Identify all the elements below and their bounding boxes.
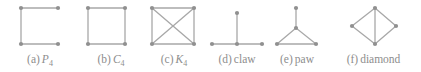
caption-name-paw: paw bbox=[293, 53, 314, 65]
graph-cell-diamond: (f)diamond bbox=[326, 0, 421, 72]
vertex-center bbox=[235, 42, 239, 46]
caption-name-diamond: diamond bbox=[358, 53, 400, 65]
edge-top-to-right bbox=[375, 8, 396, 26]
graph-drawing-p4 bbox=[0, 0, 80, 50]
vertex-top-right bbox=[192, 6, 196, 10]
vertex-top-left bbox=[86, 6, 90, 10]
edge-top-to-left bbox=[352, 8, 375, 26]
vertex-left bbox=[350, 24, 354, 28]
vertex-top-right bbox=[56, 6, 60, 10]
edge-group bbox=[21, 8, 58, 44]
vertex-right bbox=[394, 24, 398, 28]
edge-group bbox=[152, 8, 194, 44]
vertex-leaf-right bbox=[260, 42, 264, 46]
graph-drawing-diamond bbox=[326, 0, 421, 50]
graph-cell-k4: (c)K4 bbox=[142, 0, 206, 72]
graph-caption-diamond: (f)diamond bbox=[326, 52, 421, 66]
caption-index-claw: (d) bbox=[218, 53, 231, 65]
graph-caption-claw: (d)claw bbox=[206, 52, 268, 66]
graph-drawing-claw bbox=[206, 0, 268, 50]
caption-index-k4: (c) bbox=[161, 53, 174, 65]
graph-caption-paw: (e)paw bbox=[268, 52, 326, 66]
vertex-pendant-top bbox=[294, 6, 298, 10]
edge-group bbox=[88, 8, 125, 44]
edge-group bbox=[352, 8, 396, 44]
vertex-bottom-left bbox=[86, 42, 90, 46]
graph-cell-claw: (d)claw bbox=[206, 0, 268, 72]
caption-index-diamond: (f) bbox=[347, 53, 359, 65]
vertex-bottom-right bbox=[123, 42, 127, 46]
vertex-bottom-left bbox=[150, 42, 154, 46]
graph-cell-c4: (b)C4 bbox=[80, 0, 142, 72]
vertex-top-right bbox=[123, 6, 127, 10]
graph-drawing-k4 bbox=[142, 0, 206, 50]
graph-gallery-figure: (a)P4(b)C4(c)K4(d)claw(e)paw(f)diamond bbox=[0, 0, 421, 72]
graph-cell-paw: (e)paw bbox=[268, 0, 326, 72]
caption-index-paw: (e) bbox=[280, 53, 293, 65]
vertex-apex bbox=[294, 26, 298, 30]
vertex-top-left bbox=[150, 6, 154, 10]
vertex-group bbox=[86, 6, 127, 46]
vertex-base-right bbox=[314, 42, 318, 46]
vertex-top-left bbox=[19, 6, 23, 10]
caption-index-c4: (b) bbox=[97, 53, 110, 65]
graph-drawing-paw bbox=[268, 0, 326, 50]
caption-subscript-k4: 4 bbox=[183, 59, 187, 68]
caption-name-k4: K bbox=[174, 53, 184, 65]
caption-subscript-p4: 4 bbox=[49, 59, 53, 68]
vertex-bottom-right bbox=[56, 42, 60, 46]
graph-caption-k4: (c)K4 bbox=[142, 52, 206, 66]
edge-group bbox=[212, 13, 262, 44]
edge-apex-to-base-left bbox=[277, 28, 296, 44]
vertex-base-left bbox=[275, 42, 279, 46]
caption-name-c4: C bbox=[111, 53, 121, 65]
edge-apex-to-base-right bbox=[296, 28, 316, 44]
edge-bottom-to-left bbox=[352, 26, 375, 44]
caption-subscript-c4: 4 bbox=[121, 59, 125, 68]
vertex-top bbox=[373, 6, 377, 10]
edge-bottom-to-right bbox=[375, 26, 396, 44]
caption-name-claw: claw bbox=[232, 53, 256, 65]
graph-drawing-c4 bbox=[80, 0, 142, 50]
caption-index-p4: (a) bbox=[27, 53, 40, 65]
graph-caption-p4: (a)P4 bbox=[0, 52, 80, 66]
vertex-bottom-right bbox=[192, 42, 196, 46]
vertex-leaf-top bbox=[235, 11, 239, 15]
vertex-group bbox=[19, 6, 60, 46]
graph-caption-c4: (b)C4 bbox=[80, 52, 142, 66]
vertex-bottom bbox=[373, 42, 377, 46]
graph-cell-p4: (a)P4 bbox=[0, 0, 80, 72]
vertex-bottom-left bbox=[19, 42, 23, 46]
caption-name-p4: P bbox=[40, 53, 49, 65]
vertex-leaf-left bbox=[210, 42, 214, 46]
vertex-group bbox=[350, 6, 398, 46]
